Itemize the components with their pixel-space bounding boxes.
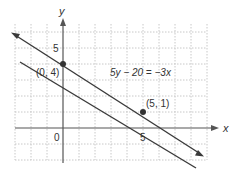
x-axis-label: x — [222, 122, 229, 134]
y-tick-label: 5 — [53, 43, 59, 54]
x-tick-label: 5 — [140, 132, 146, 143]
y-axis-label: y — [58, 5, 66, 17]
point-label-0-4: (0, 4) — [36, 67, 59, 78]
coordinate-graph: y x 5 5 0 (0, 4) (5, 1) 5y − 20 = −3x — [0, 0, 235, 170]
point-label-5-1: (5, 1) — [146, 98, 169, 109]
y-axis-arrow-icon — [60, 18, 66, 26]
equation-label: 5y − 20 = −3x — [110, 67, 172, 78]
origin-label: 0 — [54, 132, 60, 143]
point-5-1 — [140, 109, 146, 115]
x-axis-arrow-icon — [211, 125, 219, 131]
point-0-4 — [60, 61, 66, 67]
axes — [15, 18, 219, 163]
